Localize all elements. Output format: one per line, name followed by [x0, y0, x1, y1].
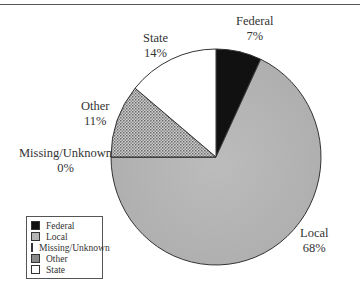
- label-missing-unknown: Missing/Unknown 0%: [19, 146, 112, 176]
- legend-item-local: Local: [31, 231, 102, 242]
- label-federal: Federal 7%: [236, 14, 273, 44]
- legend-item-missing-unknown: Missing/Unknown: [31, 242, 102, 253]
- label-other: Other 11%: [81, 99, 109, 129]
- swatch-missing-unknown: [31, 243, 33, 252]
- swatch-federal: [31, 221, 40, 230]
- legend-item-federal: Federal: [31, 220, 102, 231]
- swatch-local: [31, 232, 40, 241]
- label-state: State 14%: [143, 31, 168, 61]
- legend-item-other: Other: [31, 253, 102, 264]
- label-local: Local 68%: [300, 226, 328, 256]
- legend: Federal Local Missing/Unknown Other Stat…: [26, 216, 103, 279]
- swatch-other: [31, 254, 40, 263]
- legend-item-state: State: [31, 264, 102, 275]
- swatch-state: [31, 265, 40, 274]
